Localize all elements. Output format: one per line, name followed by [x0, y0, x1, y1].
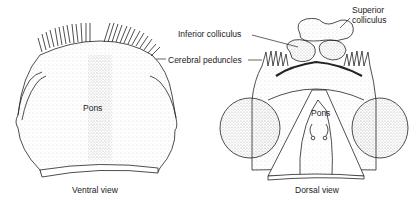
dorsal-pons-label: Pons	[311, 108, 330, 118]
dorsal-view	[220, 18, 408, 180]
superior-colliculus-shape	[298, 18, 353, 41]
ventral-view	[16, 23, 177, 177]
superior-colliculus-label-line1: Superior	[352, 5, 384, 15]
inferior-colliculus-left	[287, 40, 316, 62]
dorsal-view-caption: Dorsal view	[295, 185, 339, 195]
ventral-view-caption: Ventral view	[72, 185, 118, 195]
inferior-colliculus-label: Inferior colliculus	[178, 29, 241, 39]
dorsal-lobe-left	[220, 98, 280, 158]
dorsal-bottom-rim	[268, 174, 364, 180]
dorsal-lobe-right	[352, 98, 408, 158]
dorsal-fibers-right	[344, 51, 370, 66]
dorsal-fibers-left	[262, 51, 288, 66]
ventral-pons-label: Pons	[83, 103, 102, 113]
superior-colliculus-label-line2: colliculus	[352, 15, 387, 25]
cerebral-peduncles-label: Cerebral peduncles	[168, 55, 242, 65]
inferior-colliculus-right	[319, 40, 346, 60]
